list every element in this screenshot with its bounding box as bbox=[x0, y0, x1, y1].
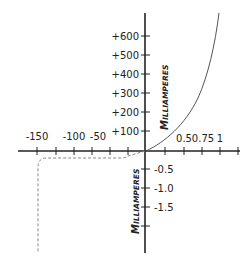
x-positive-labels: 0.5 0.75 1 bbox=[176, 133, 223, 144]
reverse-current-curve bbox=[38, 151, 145, 252]
upper-y-axis-title: MILLIAMPERES bbox=[159, 65, 170, 130]
x-label-neg150: -150 bbox=[26, 131, 49, 142]
x-label-1: 1 bbox=[217, 133, 223, 144]
y-negative-labels: -0.5 -1.0 -1.5 bbox=[154, 164, 174, 213]
y-label-neg0.5: -0.5 bbox=[154, 164, 174, 175]
y-label-600: +600 bbox=[112, 31, 139, 42]
x-negative-labels: -150 -100 -50 bbox=[26, 131, 107, 142]
y-label-300: +300 bbox=[112, 88, 139, 99]
y-label-200: +200 bbox=[112, 107, 139, 118]
lower-y-axis-title: MILLIAMPERES bbox=[130, 169, 141, 234]
x-label-0.75: 0.75 bbox=[192, 133, 214, 144]
x-label-0.5: 0.5 bbox=[176, 133, 192, 144]
y-label-400: +400 bbox=[112, 69, 139, 80]
y-label-100: +100 bbox=[112, 126, 139, 137]
y-label-neg1.0: -1.0 bbox=[154, 183, 174, 194]
forward-current-curve bbox=[146, 13, 219, 151]
y-label-neg1.5: -1.5 bbox=[154, 202, 174, 213]
diode-iv-diagram: -150 -100 -50 0.5 0.75 1 +600 +500 +400 … bbox=[0, 0, 250, 264]
y-positive-labels: +600 +500 +400 +300 +200 +100 bbox=[112, 31, 139, 137]
y-label-500: +500 bbox=[112, 50, 139, 61]
x-label-neg100: -100 bbox=[63, 131, 86, 142]
x-label-neg50: -50 bbox=[90, 131, 106, 142]
